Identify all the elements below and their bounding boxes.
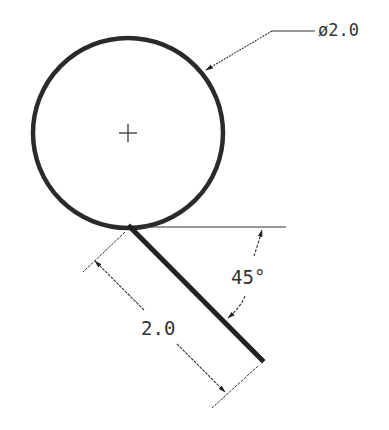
cad-drawing xyxy=(0,0,389,430)
extension-line-end xyxy=(212,366,258,408)
diameter-label: ø2.0 xyxy=(318,20,359,40)
length-dim-line-upper xyxy=(95,261,144,310)
tangent-line xyxy=(130,227,262,360)
extension-line-start xyxy=(83,232,125,272)
diameter-leader-arrow xyxy=(206,31,272,70)
length-label: 2.0 xyxy=(141,317,175,339)
angle-label: 45° xyxy=(231,266,265,288)
angle-arc-lower xyxy=(228,296,245,318)
length-dim-line-lower xyxy=(177,344,225,392)
angle-arc-upper xyxy=(254,230,262,256)
center-mark-icon xyxy=(119,124,137,142)
